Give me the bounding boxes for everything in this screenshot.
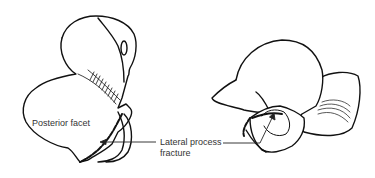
left-bone-view bbox=[23, 16, 136, 162]
right-bone-view bbox=[212, 40, 360, 152]
label-fracture: fracture bbox=[160, 148, 191, 158]
label-lateral-process: Lateral process bbox=[160, 137, 222, 147]
label-posterior-facet: Posterior facet bbox=[32, 118, 90, 128]
